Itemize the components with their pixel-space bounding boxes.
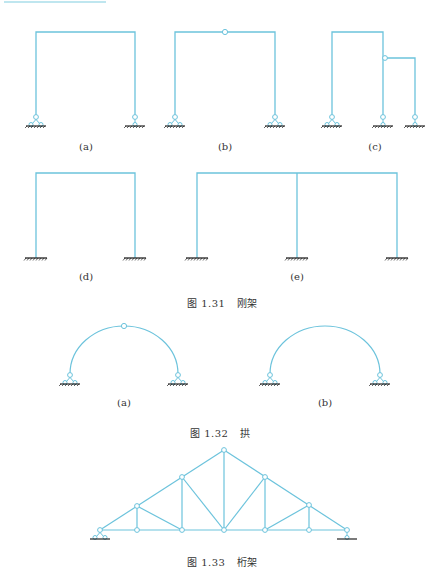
subfigure-label: (c)	[355, 141, 395, 152]
caption-title: 刚架	[237, 298, 258, 309]
caption-number: 图 1.32	[190, 428, 228, 439]
hinge-icon	[121, 323, 126, 328]
structures-diagram	[0, 0, 446, 588]
subfigure-label: (d)	[66, 271, 106, 282]
arch-b	[270, 326, 380, 374]
frame-c	[332, 32, 415, 115]
figure-caption: 图 1.33 桁架	[187, 554, 258, 569]
hinge-icon	[222, 29, 227, 34]
subfigure-label: (e)	[277, 271, 317, 282]
caption-number: 图 1.33	[187, 557, 225, 568]
fixed-support-icon	[185, 258, 208, 261]
pin-support-icon	[372, 115, 393, 128]
figure-caption: 图 1.31 刚架	[187, 295, 258, 310]
figure-caption: 图 1.32 拱	[190, 425, 250, 440]
subfigure-label: (b)	[205, 141, 245, 152]
pin-support-icon	[369, 373, 390, 386]
arch-a	[70, 326, 178, 374]
subfigure-label: (b)	[305, 397, 345, 408]
frame-e	[197, 173, 397, 258]
pin-support-icon	[264, 115, 285, 128]
fixed-support-icon	[385, 258, 408, 261]
frame-a	[36, 32, 135, 115]
frame-b	[175, 32, 275, 115]
hinge-icon	[383, 56, 388, 61]
pin-support-icon	[90, 532, 110, 539]
caption-title: 拱	[240, 428, 251, 439]
pin-support-icon	[404, 115, 425, 128]
caption-title: 桁架	[237, 557, 258, 568]
fixed-support-icon	[24, 258, 47, 261]
frame-d	[36, 173, 135, 258]
pin-support-icon	[164, 115, 185, 128]
roller-support-icon	[337, 532, 357, 539]
pin-support-icon	[59, 373, 80, 386]
pin-support-icon	[167, 373, 188, 386]
fixed-support-icon	[123, 258, 146, 261]
subfigure-label: (a)	[66, 141, 106, 152]
caption-number: 图 1.31	[187, 298, 225, 309]
pin-support-icon	[25, 115, 46, 128]
pin-support-icon	[321, 115, 342, 128]
subfigure-label: (a)	[104, 397, 144, 408]
fixed-support-icon	[285, 258, 308, 261]
pin-support-icon	[259, 373, 280, 386]
pin-support-icon	[124, 115, 145, 128]
truss	[100, 450, 347, 530]
